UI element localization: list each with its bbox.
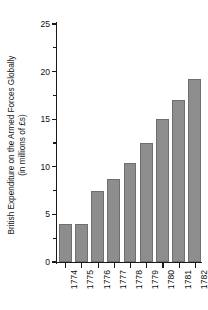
bar [188,79,201,262]
x-tick [65,263,66,268]
x-tick-label: 1775 [85,270,95,310]
y-tick-major [52,119,57,120]
y-tick-minor [53,142,56,143]
x-tick [195,263,196,268]
y-tick-major [52,261,57,262]
x-tick [162,263,163,268]
x-tick-label: 1779 [150,270,160,310]
y-tick-major [52,23,57,24]
y-tick-label: 0 [45,257,50,267]
y-tick-label: 20 [40,67,50,77]
x-tick-label: 1777 [118,270,128,310]
bar [156,119,169,262]
y-axis-title-text: British Expenditure on the Armed Forces … [6,56,28,235]
x-tick [114,263,115,268]
y-tick-major [52,214,57,215]
y-tick-minor [53,47,56,48]
y-tick-label: 15 [40,114,50,124]
x-tick-label: 1781 [183,270,193,310]
y-tick-label: 10 [40,162,50,172]
y-tick-minor [53,190,56,191]
bar [172,100,185,262]
x-tick-label: 1778 [134,270,144,310]
y-tick-label: 5 [45,209,50,219]
y-axis-title-line-1: British Expenditure on the Armed Forces … [6,56,17,235]
bar-chart-figure: British Expenditure on the Armed Forces … [0,0,208,310]
y-axis-title-line-2: (in millions of £s) [17,56,28,235]
y-axis-title: British Expenditure on the Armed Forces … [0,0,34,290]
bar [140,143,153,262]
bar [91,191,104,262]
y-tick-minor [53,238,56,239]
bar-series [57,24,202,262]
y-tick-major [52,71,57,72]
plot-area: 0510152025 17741775177617771778177917801… [56,24,202,262]
y-tick-label: 25 [40,19,50,29]
y-tick-major [52,166,57,167]
bar [59,224,72,262]
x-axis-line [56,262,202,263]
x-tick-label: 1776 [102,270,112,310]
x-tick-label: 1782 [199,270,208,310]
x-tick [179,263,180,268]
bar [107,179,120,262]
bar [75,224,88,262]
x-tick [146,263,147,268]
x-tick-label: 1780 [166,270,176,310]
bar [124,163,137,262]
y-tick-minor [53,95,56,96]
x-tick-label: 1774 [69,270,79,310]
x-tick [98,263,99,268]
x-tick [130,263,131,268]
x-tick [81,263,82,268]
